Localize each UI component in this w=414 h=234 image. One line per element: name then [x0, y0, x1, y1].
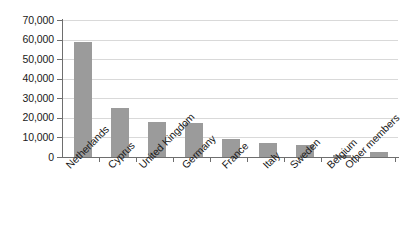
gridline [62, 20, 398, 21]
y-axis-tick [57, 118, 62, 119]
y-axis-tick [57, 79, 62, 80]
gridline [62, 79, 398, 80]
bar-chart: 70,000 60,000 50,000 40,000 30,000 20,00… [0, 0, 414, 234]
y-axis-label-60000: 60,000 [0, 34, 54, 45]
y-axis-label-30000: 30,000 [0, 93, 54, 104]
x-axis-tick [99, 158, 100, 162]
y-axis-tick [57, 40, 62, 41]
x-axis-tick [210, 158, 211, 162]
y-axis-tick [57, 20, 62, 21]
y-axis-tick [57, 157, 62, 158]
x-axis-tick [321, 158, 322, 162]
y-axis-line [62, 19, 63, 158]
y-axis-label-50000: 50,000 [0, 54, 54, 65]
gridline [62, 59, 398, 60]
x-axis-tick [284, 158, 285, 162]
y-axis-label-0: 0 [0, 152, 54, 163]
y-axis-label-40000: 40,000 [0, 73, 54, 84]
y-axis-label-10000: 10,000 [0, 132, 54, 143]
gridline [62, 98, 398, 99]
gridline [62, 40, 398, 41]
y-axis-tick [57, 137, 62, 138]
y-axis-label-70000: 70,000 [0, 15, 54, 26]
x-axis-tick [247, 158, 248, 162]
y-axis-tick [57, 59, 62, 60]
x-axis-tick [395, 158, 396, 162]
x-axis-tick [173, 158, 174, 162]
plot-area [62, 20, 398, 157]
y-axis-tick [57, 98, 62, 99]
y-axis-label-20000: 20,000 [0, 112, 54, 123]
